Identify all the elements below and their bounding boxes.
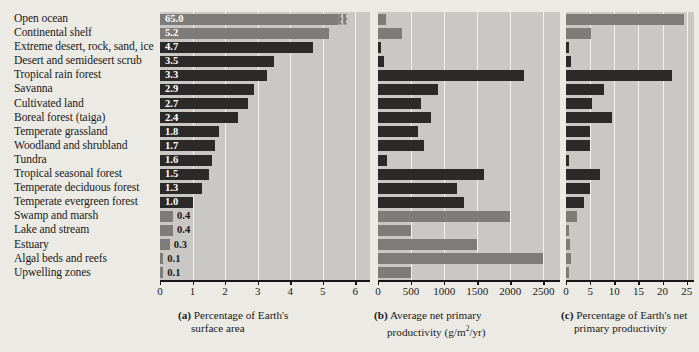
bar-c-lake-and-stream <box>566 225 569 236</box>
bar-c-boreal-forest-taiga <box>566 112 612 123</box>
bar-c-tropical-rain-forest <box>566 70 672 81</box>
bar-row <box>378 97 560 111</box>
biome-label-lake-and-stream: Lake and stream <box>0 223 160 237</box>
bar-row: 0.4 <box>160 209 370 223</box>
tick-label-c-10: 10 <box>609 285 620 297</box>
bar-value-label: 3.5 <box>165 54 178 68</box>
biome-label-swamp-and-marsh: Swamp and marsh <box>0 209 160 223</box>
bar-row <box>378 238 560 252</box>
bar-b-open-ocean <box>378 14 386 25</box>
tick-label-b-0: 0 <box>375 285 381 297</box>
biome-label-cultivated-land: Cultivated land <box>0 97 160 111</box>
bar-value-label: 65.0 <box>165 12 184 26</box>
biome-label-woodland-and-shrubland: Woodland and shrubland <box>0 139 160 153</box>
biome-label-upwelling-zones: Upwelling zones <box>0 266 160 280</box>
bar-c-open-ocean <box>566 14 684 25</box>
caption-panel-a-line1: Percentage of Earth's <box>194 309 289 321</box>
tick-label-b-500: 500 <box>403 285 420 297</box>
bar-row <box>378 12 560 26</box>
bar-value-label: 4.7 <box>165 40 178 54</box>
bar-b-cultivated-land <box>378 98 421 109</box>
biome-label-temperate-grassland: Temperate grassland <box>0 125 160 139</box>
caption-panel-b-line2: productivity (g/m2/yr) <box>374 322 559 339</box>
bar-row <box>378 111 560 125</box>
bar-value-label: 1.8 <box>165 125 178 139</box>
tick-label-a-3: 3 <box>255 285 261 297</box>
bar-row <box>566 125 694 139</box>
bar-b-boreal-forest-taiga <box>378 112 431 123</box>
bar-value-label: 1.7 <box>165 139 178 153</box>
bar-value-label: 0.1 <box>167 266 180 280</box>
bar-row: 1.5 <box>160 167 370 181</box>
bar-row: 3.5 <box>160 54 370 68</box>
bar-row: 1.3 <box>160 181 370 195</box>
tick-label-a-1: 1 <box>190 285 196 297</box>
bar-row: 2.7 <box>160 97 370 111</box>
caption-panel-a-line2: surface area <box>178 322 358 335</box>
bar-a-lake-and-stream <box>160 225 173 236</box>
tick-label-a-5: 5 <box>320 285 326 297</box>
bar-a-swamp-and-marsh <box>160 211 173 222</box>
bar-row <box>378 195 560 209</box>
bar-row <box>566 68 694 82</box>
biome-label-temperate-deciduous-forest: Temperate deciduous forest <box>0 181 160 195</box>
bar-row <box>566 266 694 280</box>
bar-value-label: 2.7 <box>165 97 178 111</box>
bar-c-extreme-desert-rock-sand-ice <box>566 42 569 53</box>
bar-row <box>378 223 560 237</box>
bar-value-label: 0.1 <box>167 252 180 266</box>
tick-label-b-2500: 2500 <box>532 285 554 297</box>
bar-b-continental-shelf <box>378 28 402 39</box>
bar-c-algal-beds-and-reefs <box>566 253 571 264</box>
bar-row <box>566 82 694 96</box>
biome-label-continental-shelf: Continental shelf <box>0 26 160 40</box>
bar-row <box>378 26 560 40</box>
biome-label-open-ocean: Open ocean <box>0 12 160 26</box>
bar-row <box>566 252 694 266</box>
bar-b-temperate-evergreen-forest <box>378 197 464 208</box>
bar-row <box>378 125 560 139</box>
bar-a-extreme-desert-rock-sand-ice <box>160 42 313 53</box>
bar-row <box>378 82 560 96</box>
bar-c-savanna <box>566 84 604 95</box>
bar-c-cultivated-land <box>566 98 592 109</box>
biome-label-boreal-forest-taiga: Boreal forest (taiga) <box>0 111 160 125</box>
caption-panel-c-line2: primary productivity <box>561 322 699 335</box>
bar-c-temperate-deciduous-forest <box>566 183 590 194</box>
bar-row: 1.7 <box>160 139 370 153</box>
bar-value-label: 1.3 <box>165 181 178 195</box>
biome-label-temperate-evergreen-forest: Temperate evergreen forest <box>0 195 160 209</box>
bar-b-upwelling-zones <box>378 267 411 278</box>
bar-c-woodland-and-shrubland <box>566 140 590 151</box>
bar-row <box>378 54 560 68</box>
bar-row: 1.0 <box>160 195 370 209</box>
bar-b-lake-and-stream <box>378 225 411 236</box>
bar-b-tundra <box>378 155 387 166</box>
bar-value-label: 5.2 <box>165 26 178 40</box>
bar-b-woodland-and-shrubland <box>378 140 424 151</box>
bar-b-swamp-and-marsh <box>378 211 510 222</box>
bar-row <box>566 153 694 167</box>
bar-row: 0.1 <box>160 252 370 266</box>
tick-label-c-25: 25 <box>681 285 692 297</box>
caption-panel-b-line1: Average net primary <box>390 309 482 321</box>
bar-value-label: 1.0 <box>165 195 178 209</box>
bar-row <box>566 54 694 68</box>
tick-label-a-4: 4 <box>287 285 293 297</box>
bar-c-desert-and-semidesert-scrub <box>566 56 571 67</box>
bar-value-label: 2.4 <box>165 111 178 125</box>
caption-panel-c: (c) Percentage of Earth's net primary pr… <box>561 309 699 336</box>
bar-row <box>566 238 694 252</box>
bar-c-continental-shelf <box>566 28 591 39</box>
tick-label-c-15: 15 <box>633 285 644 297</box>
figure-three-panel-biome-chart: Open oceanContinental shelfExtreme deser… <box>0 0 699 352</box>
bar-row <box>566 40 694 54</box>
bar-value-label: 2.9 <box>165 82 178 96</box>
bar-b-temperate-deciduous-forest <box>378 183 457 194</box>
bar-c-tropical-seasonal-forest <box>566 169 600 180</box>
bar-row <box>566 139 694 153</box>
tick-label-c-20: 20 <box>657 285 668 297</box>
bar-c-temperate-evergreen-forest <box>566 197 584 208</box>
bar-row <box>566 167 694 181</box>
bar-row <box>378 68 560 82</box>
